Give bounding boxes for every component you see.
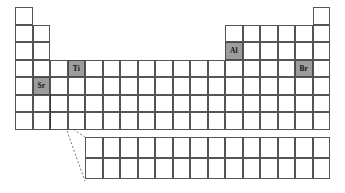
element-cell-r4c15[interactable] [260, 60, 278, 78]
element-cell-r3c15[interactable] [260, 42, 278, 60]
element-cell-r2c14[interactable] [243, 25, 261, 43]
fblock-cell-r1c1[interactable] [85, 137, 103, 158]
element-cell-r4c12[interactable] [208, 60, 226, 78]
fblock-cell-r2c6[interactable] [173, 158, 191, 179]
fblock-cell-r1c9[interactable] [225, 137, 243, 158]
fblock-cell-r1c8[interactable] [208, 137, 226, 158]
element-cell-r7c10[interactable] [173, 112, 191, 130]
element-cell-r2c2[interactable] [33, 25, 51, 43]
element-cell-r6c18[interactable] [313, 95, 331, 113]
element-cell-r5c16[interactable] [278, 77, 296, 95]
element-cell-r6c4[interactable] [68, 95, 86, 113]
element-cell-r4c1[interactable] [15, 60, 33, 78]
element-cell-r5c6[interactable] [103, 77, 121, 95]
element-cell-r4c10[interactable] [173, 60, 191, 78]
element-cell-r4c14[interactable] [243, 60, 261, 78]
element-cell-r7c1[interactable] [15, 112, 33, 130]
element-cell-r3c18[interactable] [313, 42, 331, 60]
element-cell-r6c12[interactable] [208, 95, 226, 113]
fblock-cell-r1c4[interactable] [138, 137, 156, 158]
fblock-cell-r1c12[interactable] [278, 137, 296, 158]
element-cell-r2c17[interactable] [295, 25, 313, 43]
element-cell-r5c11[interactable] [190, 77, 208, 95]
element-cell-r3c16[interactable] [278, 42, 296, 60]
element-cell-r5c3[interactable] [50, 77, 68, 95]
fblock-cell-r2c7[interactable] [190, 158, 208, 179]
element-cell-r5c1[interactable] [15, 77, 33, 95]
element-cell-r7c8[interactable] [138, 112, 156, 130]
fblock-cell-r2c10[interactable] [243, 158, 261, 179]
element-cell-r6c8[interactable] [138, 95, 156, 113]
fblock-cell-r1c6[interactable] [173, 137, 191, 158]
element-cell-r5c10[interactable] [173, 77, 191, 95]
element-cell-r7c12[interactable] [208, 112, 226, 130]
element-cell-r4c2[interactable] [33, 60, 51, 78]
element-cell-r4c5[interactable] [85, 60, 103, 78]
element-cell-r6c6[interactable] [103, 95, 121, 113]
element-cell-r7c14[interactable] [243, 112, 261, 130]
element-cell-r4c9[interactable] [155, 60, 173, 78]
element-cell-r2c15[interactable] [260, 25, 278, 43]
element-cell-r4c3[interactable] [50, 60, 68, 78]
fblock-cell-r1c13[interactable] [295, 137, 313, 158]
element-cell-r5c13[interactable] [225, 77, 243, 95]
element-cell-r7c15[interactable] [260, 112, 278, 130]
element-cell-r4c11[interactable] [190, 60, 208, 78]
element-cell-r1c18[interactable] [313, 7, 331, 25]
fblock-cell-r1c10[interactable] [243, 137, 261, 158]
fblock-cell-r2c9[interactable] [225, 158, 243, 179]
element-cell-r3c14[interactable] [243, 42, 261, 60]
element-cell-r7c17[interactable] [295, 112, 313, 130]
element-cell-r1c1[interactable] [15, 7, 33, 25]
element-cell-r6c3[interactable] [50, 95, 68, 113]
element-cell-r5c4[interactable] [68, 77, 86, 95]
element-cell-r3c1[interactable] [15, 42, 33, 60]
fblock-cell-r1c11[interactable] [260, 137, 278, 158]
element-cell-r6c13[interactable] [225, 95, 243, 113]
fblock-cell-r2c11[interactable] [260, 158, 278, 179]
element-cell-r4c7[interactable] [120, 60, 138, 78]
element-cell-r6c1[interactable] [15, 95, 33, 113]
element-cell-r7c16[interactable] [278, 112, 296, 130]
element-cell-r6c14[interactable] [243, 95, 261, 113]
element-cell-r5c8[interactable] [138, 77, 156, 95]
element-cell-r6c5[interactable] [85, 95, 103, 113]
element-cell-r6c7[interactable] [120, 95, 138, 113]
element-cell-r5c17[interactable] [295, 77, 313, 95]
fblock-cell-r2c5[interactable] [155, 158, 173, 179]
fblock-cell-r2c1[interactable] [85, 158, 103, 179]
element-cell-r2c13[interactable] [225, 25, 243, 43]
element-cell-r5c15[interactable] [260, 77, 278, 95]
fblock-cell-r1c2[interactable] [103, 137, 121, 158]
element-cell-r7c9[interactable] [155, 112, 173, 130]
element-cell-r7c18[interactable] [313, 112, 331, 130]
fblock-cell-r2c13[interactable] [295, 158, 313, 179]
element-cell-r7c7[interactable] [120, 112, 138, 130]
element-cell-r4c8[interactable] [138, 60, 156, 78]
element-cell-r6c17[interactable] [295, 95, 313, 113]
element-cell-r4c16[interactable] [278, 60, 296, 78]
fblock-cell-r1c7[interactable] [190, 137, 208, 158]
element-cell-al[interactable]: Al [225, 42, 243, 60]
element-cell-r7c3[interactable] [50, 112, 68, 130]
element-cell-r4c18[interactable] [313, 60, 331, 78]
element-cell-r6c10[interactable] [173, 95, 191, 113]
element-cell-r7c13[interactable] [225, 112, 243, 130]
element-cell-r7c4[interactable] [68, 112, 86, 130]
element-cell-r2c16[interactable] [278, 25, 296, 43]
element-cell-r4c6[interactable] [103, 60, 121, 78]
element-cell-r7c11[interactable] [190, 112, 208, 130]
element-cell-r2c18[interactable] [313, 25, 331, 43]
element-cell-r5c14[interactable] [243, 77, 261, 95]
element-cell-ti[interactable]: Ti [68, 60, 86, 78]
element-cell-r7c2[interactable] [33, 112, 51, 130]
element-cell-r5c12[interactable] [208, 77, 226, 95]
element-cell-r6c11[interactable] [190, 95, 208, 113]
element-cell-r5c18[interactable] [313, 77, 331, 95]
element-cell-br[interactable]: Br [295, 60, 313, 78]
element-cell-r2c1[interactable] [15, 25, 33, 43]
element-cell-r4c13[interactable] [225, 60, 243, 78]
element-cell-r6c15[interactable] [260, 95, 278, 113]
fblock-cell-r1c14[interactable] [313, 137, 331, 158]
element-cell-r5c5[interactable] [85, 77, 103, 95]
